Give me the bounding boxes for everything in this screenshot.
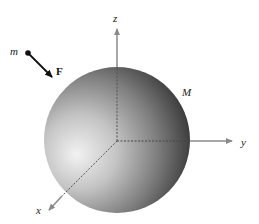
gravitation-figure: z y x m F M [0, 0, 259, 224]
particle-label: m [10, 45, 18, 57]
x-axis-label: x [35, 204, 41, 216]
diagram-canvas: z y x m F M [0, 0, 259, 224]
y-axis-label: y [240, 136, 246, 148]
force-arrow [28, 53, 52, 77]
x-axis [49, 196, 62, 210]
sphere-mass-label: M [181, 86, 192, 98]
z-axis-label: z [112, 12, 118, 24]
force-label: F [56, 65, 63, 77]
